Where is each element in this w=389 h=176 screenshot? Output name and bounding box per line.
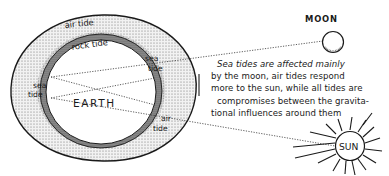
caption-line-1: Sea tides are affected mainly (201, 58, 387, 70)
label-air-tide-bottom-2: tide (153, 124, 168, 133)
earth-body (46, 40, 156, 144)
moon: MOON (305, 14, 344, 53)
label-sea-tide-right-1: sea (145, 54, 158, 63)
caption-line-3: more to the sun, while all tides are (201, 82, 387, 94)
label-sun: SUN (339, 141, 358, 152)
label-sea-tide-left-2: tide (28, 90, 43, 99)
label-earth: EARTH (73, 97, 116, 109)
moon-icon (323, 32, 344, 53)
label-air-tide-bottom-1: air (161, 114, 172, 123)
caption-line-4: compromises between the gravita- (201, 95, 387, 107)
label-moon: MOON (305, 14, 338, 24)
caption-line-2: by the moon, air tides respond (201, 70, 387, 82)
label-sea-tide-right-2: tide (148, 64, 163, 73)
label-sea-tide-left-1: sea (33, 81, 46, 90)
sun: SUN (293, 113, 382, 175)
caption-line-5: tional influences around them (201, 107, 387, 119)
caption: Sea tides are affected mainly by the moo… (201, 58, 387, 119)
